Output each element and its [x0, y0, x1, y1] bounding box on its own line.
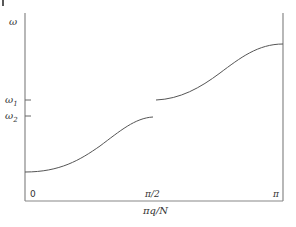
dispersion-chart: ω ω1 ω2 0 π/2 π πq/N: [0, 0, 296, 227]
x-axis-label: πq/N: [142, 205, 169, 216]
x-tick-pi: π: [272, 189, 280, 199]
omega2-label: ω2: [5, 110, 18, 124]
lower-branch-curve: [25, 117, 153, 172]
y-axis-label: ω: [9, 16, 17, 27]
x-tick-pi-half: π/2: [144, 189, 160, 199]
omega1-label: ω1: [5, 94, 18, 108]
x-tick-0: 0: [30, 189, 36, 199]
upper-branch-curve: [156, 44, 283, 100]
